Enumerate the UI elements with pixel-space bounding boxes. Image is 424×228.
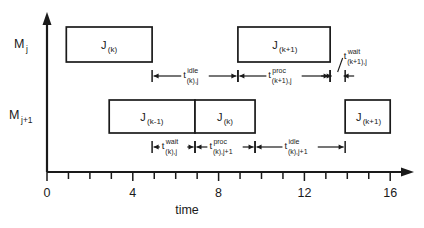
measure-arrow-right [187, 144, 193, 149]
row-label-machine-j-plus-1: M j+1 [9, 108, 33, 125]
measurement-t-idle-k-j: tidle(k),j [152, 67, 238, 85]
measure-label-subscript: (k+1),j [272, 77, 292, 85]
measure-label-subscript: (k),j [187, 77, 199, 85]
machine-j-plus-1-label-main: M [9, 108, 19, 122]
gantt-chart-figure: 0481216 M j M j+1 J(k)J(k+1)J(k-1)J(k)J(… [0, 0, 424, 228]
row-label-machine-j: M j [14, 37, 28, 54]
y-axis-arrowhead [43, 12, 52, 25]
job-bar-label-sub: (k-1) [147, 117, 164, 126]
measure-label-superscript: proc [272, 67, 286, 75]
measure-arrow-left [154, 73, 182, 78]
x-axis-arrowhead [401, 168, 414, 177]
x-tick-label-16: 16 [383, 186, 397, 200]
measure-label-subscript: (k),j+1 [213, 148, 233, 156]
job-bar-jk+1: J(k+1) [345, 100, 390, 133]
measurement-t-proc-k-plus-1-j: tproc(k+1),j [238, 67, 330, 85]
measure-arrow-left [239, 73, 266, 78]
machine-j-label-main: M [14, 37, 24, 51]
job-bar-jk: J(k) [66, 27, 152, 62]
chart-canvas: 0481216 M j M j+1 J(k)J(k+1)J(k-1)J(k)J(… [0, 0, 424, 228]
measure-arrow-left [154, 144, 160, 149]
x-axis-ticks [47, 172, 390, 181]
job-bar-jk-1: J(k-1) [109, 100, 195, 133]
job-bar-label-main: J [140, 111, 146, 123]
job-bar-label-main: J [356, 111, 362, 123]
measure-label-superscript: proc [213, 138, 227, 146]
x-axis-title: time [175, 203, 199, 217]
job-bar-label-main: J [101, 39, 107, 51]
measure-arrow-left [197, 144, 208, 149]
x-tick-label-0: 0 [44, 186, 51, 200]
measure-label-superscript: wait [165, 138, 179, 145]
measure-leader-line [338, 58, 343, 72]
job-bar-label-sub: (k) [224, 117, 234, 126]
job-bar-label-sub: (k) [108, 45, 118, 54]
job-bar-label-sub: (k+1) [279, 45, 298, 54]
measure-arrow-left [257, 144, 283, 149]
machine-j-label-sub: j [25, 44, 28, 54]
measurement-t-wait-k-j: twait(k),j [152, 138, 195, 156]
measure-label-superscript: wait [347, 48, 361, 55]
job-bar-label-main: J [272, 39, 278, 51]
x-tick-label-8: 8 [215, 186, 222, 200]
x-axis-tick-labels: 0481216 [44, 186, 398, 200]
measure-label-superscript: idle [187, 67, 198, 74]
job-bar-label-sub: (k+1) [363, 117, 382, 126]
job-bar-jk+1: J(k+1) [238, 27, 330, 62]
x-tick-label-12: 12 [297, 186, 311, 200]
job-bar-jk: J(k) [195, 100, 255, 133]
measurement-t-idle-k-j-plus-1: tidle(k),j+1 [255, 138, 345, 156]
x-tick-label-4: 4 [129, 186, 136, 200]
job-bars-group: J(k)J(k+1)J(k-1)J(k)J(k+1) [66, 27, 390, 133]
measure-label-subscript: (k),j+1 [288, 148, 308, 156]
machine-j-plus-1-label-sub: j+1 [20, 115, 33, 125]
measure-arrow-right [209, 73, 237, 78]
measurement-t-proc-k-j-plus-1: tproc(k),j+1 [195, 138, 255, 156]
measure-label-subscript: (k),j [165, 148, 177, 156]
measure-arrow-right [243, 144, 254, 149]
measure-label-superscript: idle [288, 138, 299, 145]
measure-arrow-right [318, 144, 344, 149]
measure-label-subscript: (k+1),j [347, 58, 367, 66]
job-bar-label-main: J [217, 111, 223, 123]
